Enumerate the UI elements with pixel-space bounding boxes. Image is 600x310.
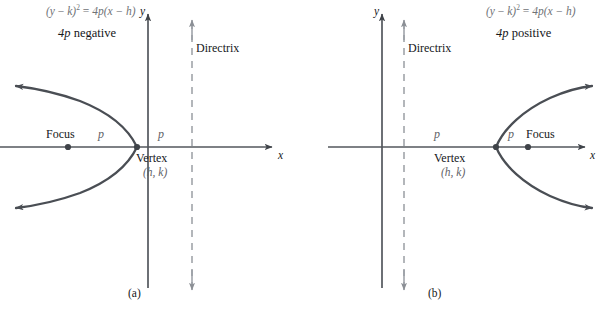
p-label-left-b: p <box>434 128 440 140</box>
focus-label-b: Focus <box>526 128 555 140</box>
y-axis-label-a: y <box>140 6 145 18</box>
vertex-label-a: Vertex <box>136 152 167 164</box>
vertex-point-b <box>493 144 499 150</box>
vertex-point-a <box>134 144 140 150</box>
vertex-coords-label-a: (h, k) <box>143 167 167 179</box>
focus-label-a: Focus <box>46 128 75 140</box>
caption-a: (a) <box>128 288 141 300</box>
focus-point-b <box>525 144 531 150</box>
equation-label-b: (y − k)2 = 4p(x − h) <box>486 4 576 17</box>
p-label-right-a: p <box>158 128 164 140</box>
caption-b: (b) <box>428 288 441 300</box>
p-label-left-a: p <box>98 128 104 140</box>
vertex-label-b: Vertex <box>434 152 465 164</box>
directrix-label-a: Directrix <box>196 42 239 54</box>
panel-a: (y − k)2 = 4p(x − h) 4p negative y x Dir… <box>0 0 300 310</box>
p-label-right-b: p <box>508 128 514 140</box>
vertex-coords-label-b: (h, k) <box>441 167 465 179</box>
parabola-curve-upper-a <box>16 86 137 147</box>
parabola-figure: (y − k)2 = 4p(x − h) 4p negative y x Dir… <box>0 0 600 310</box>
y-axis-label-b: y <box>374 6 379 18</box>
sign-label-a: 4p negative <box>58 27 116 40</box>
panel-b: (y − k)2 = 4p(x − h) 4p positive y x Dir… <box>300 0 600 310</box>
directrix-label-b: Directrix <box>408 42 451 54</box>
x-axis-label-a: x <box>278 150 283 162</box>
parabola-curve-lower-b <box>496 147 592 208</box>
sign-label-b: 4p positive <box>496 27 551 40</box>
equation-label-a: (y − k)2 = 4p(x − h) <box>46 4 136 17</box>
focus-point-a <box>65 144 71 150</box>
parabola-curve-lower-a <box>16 147 137 208</box>
x-axis-label-b: x <box>590 150 595 162</box>
